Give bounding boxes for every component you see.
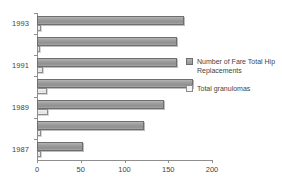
bar-group (37, 118, 212, 139)
y-axis-label-1993: 1993 (12, 19, 29, 28)
y-axis-tick (34, 55, 37, 56)
legend-label: Number of Fare Total Hip Replacements (197, 57, 280, 75)
bar-hip-replacements (37, 58, 177, 67)
legend-swatch-series0 (186, 58, 193, 65)
bar-granulomas (37, 46, 40, 52)
bar-granulomas (37, 130, 41, 136)
chart-legend: Number of Fare Total Hip Replacements To… (186, 57, 280, 102)
x-axis-label: 150 (162, 165, 175, 174)
bar-hip-replacements (37, 16, 184, 25)
legend-item: Number of Fare Total Hip Replacements (186, 57, 280, 75)
x-axis-label: 50 (77, 165, 85, 174)
x-axis-tick (37, 160, 38, 163)
y-axis-tick (34, 118, 37, 119)
legend-label: Total granulomas (197, 84, 280, 93)
bar-hip-replacements (37, 100, 164, 109)
bar-chart: 1987198919911993 050100150200 Number of … (0, 0, 282, 184)
y-axis-labels: 1987198919911993 (0, 13, 35, 160)
x-axis-tick (81, 160, 82, 163)
x-axis-label: 0 (35, 165, 39, 174)
bar-hip-replacements (37, 79, 193, 88)
x-axis-label: 100 (118, 165, 131, 174)
y-axis-label-1987: 1987 (12, 145, 29, 154)
y-axis-tick (34, 139, 37, 140)
y-axis-tick (34, 76, 37, 77)
bar-hip-replacements (37, 37, 177, 46)
x-axis-tick (168, 160, 169, 163)
bar-granulomas (37, 151, 41, 157)
y-axis-label-1989: 1989 (12, 103, 29, 112)
bar-group (37, 139, 212, 160)
x-axis-tick (125, 160, 126, 163)
y-axis-tick (34, 34, 37, 35)
bar-granulomas (37, 67, 43, 73)
legend-swatch-series1 (186, 85, 193, 92)
x-axis-tick (212, 160, 213, 163)
bar-group (37, 13, 212, 34)
bar-granulomas (37, 109, 48, 115)
bar-granulomas (37, 25, 41, 31)
y-axis-label-1991: 1991 (12, 61, 29, 70)
y-axis-tick (34, 97, 37, 98)
bar-group (37, 34, 212, 55)
bar-hip-replacements (37, 121, 144, 130)
x-axis-label: 200 (206, 165, 219, 174)
bar-hip-replacements (37, 142, 83, 151)
y-axis-tick (34, 13, 37, 14)
bar-granulomas (37, 88, 47, 94)
legend-item: Total granulomas (186, 84, 280, 93)
